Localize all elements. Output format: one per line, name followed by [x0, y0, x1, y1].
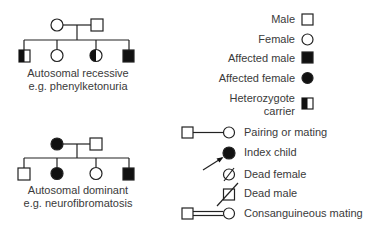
female-parent-icon [51, 19, 63, 31]
legend-dead-female-label: Dead female [244, 168, 306, 181]
male-child-icon [18, 168, 30, 180]
legend-carrier-line2: carrier [230, 105, 295, 118]
legend-dead-male-label: Dead male [244, 187, 297, 200]
dominant-caption: Autosomal dominant e.g. neurofibromatosi… [18, 184, 138, 210]
male-parent-icon [91, 19, 103, 31]
legend-male-label: Male [271, 13, 295, 26]
affected-male-child-icon [123, 168, 134, 180]
recessive-caption: Autosomal recessive e.g. phenylketonuria [20, 67, 136, 93]
carrier-symbol-icon [302, 98, 313, 109]
affected-female-child-icon [51, 168, 63, 180]
legend-affected-male-label: Affected male [228, 52, 295, 65]
dominant-pedigree [18, 138, 134, 180]
affected-male-icon [123, 50, 134, 62]
male-symbol-icon [302, 14, 313, 25]
carrier-male-icon [19, 50, 30, 62]
legend-female-label: Female [258, 33, 295, 46]
female-child-icon [90, 168, 102, 180]
affected-female-parent-icon [51, 138, 63, 150]
consanguineous-symbol-icon [182, 208, 235, 219]
dead-female-symbol-icon [224, 168, 235, 181]
carrier-female-icon [90, 50, 102, 62]
recessive-caption-line2: e.g. phenylketonuria [20, 80, 136, 93]
legend-index-child-label: Index child [244, 146, 297, 159]
dominant-caption-line2: e.g. neurofibromatosis [18, 197, 138, 210]
legend-symbols-bottom [182, 127, 238, 219]
pairing-symbol-icon [182, 127, 235, 138]
legend-affected-female-label: Affected female [219, 72, 295, 85]
legend-consanguineous-label: Consanguineous mating [244, 207, 363, 220]
legend-carrier-line1: Heterozygote [230, 92, 295, 105]
pedigree-symbols-figure: Autosomal recessive e.g. phenylketonuria… [0, 0, 373, 231]
male-parent-icon [90, 138, 102, 150]
female-symbol-icon [302, 34, 313, 45]
affected-male-symbol-icon [302, 52, 313, 63]
legend-pairing-label: Pairing or mating [244, 126, 327, 139]
recessive-pedigree [19, 19, 134, 62]
dead-male-symbol-icon [217, 183, 238, 206]
legend-symbols [302, 14, 313, 109]
dominant-caption-line1: Autosomal dominant [18, 184, 138, 197]
affected-female-symbol-icon [302, 73, 313, 84]
recessive-caption-line1: Autosomal recessive [20, 67, 136, 80]
legend-carrier-label: Heterozygote carrier [230, 92, 295, 118]
female-child-icon [51, 50, 63, 62]
index-child-symbol-icon [203, 147, 235, 170]
